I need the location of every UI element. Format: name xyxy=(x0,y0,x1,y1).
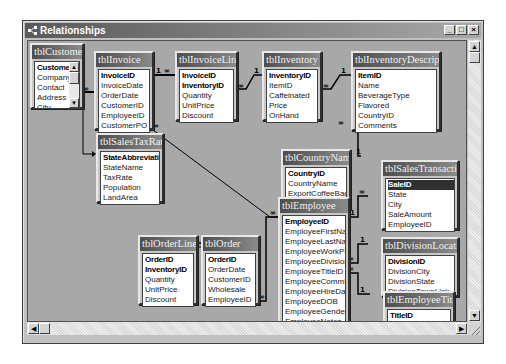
field-item[interactable]: EmployeeID xyxy=(285,217,345,227)
field-item[interactable]: UnitPrice xyxy=(145,285,193,295)
field-item[interactable]: DivisionCity xyxy=(388,267,454,277)
table-invoice[interactable]: tblInvoice InvoiceID InvoiceDate OrderDa… xyxy=(94,51,154,130)
field-item[interactable]: OrderID xyxy=(208,255,255,265)
field-item[interactable]: CountryID xyxy=(288,169,346,179)
table-title[interactable]: tblSalesTransactions xyxy=(383,162,457,176)
field-item[interactable]: StateName xyxy=(103,163,159,173)
scroll-up-icon[interactable]: ▲ xyxy=(69,62,79,72)
field-item[interactable]: UnitPrice xyxy=(182,101,233,111)
field-item[interactable]: ItemID xyxy=(269,81,317,91)
horizontal-scroll-thumb[interactable] xyxy=(39,323,50,334)
field-item[interactable]: DivisionState xyxy=(388,277,454,287)
table-order[interactable]: tblOrder OrderID OrderDate CustomerID Wh… xyxy=(201,235,260,305)
field-item[interactable]: OnHand xyxy=(269,111,317,121)
field-item[interactable]: CustomerID xyxy=(37,63,69,73)
table-invoiceline[interactable]: tblInvoiceLine InvoiceID InventoryID Qua… xyxy=(175,51,238,121)
table-title[interactable]: tblEmployee xyxy=(280,199,348,213)
field-list[interactable]: SaleID State City SaleAmount EmployeeID xyxy=(385,178,455,232)
field-item[interactable]: Quantity xyxy=(145,275,193,285)
table-inventory[interactable]: tblInventory InventoryID ItemID Caffeina… xyxy=(262,51,322,121)
field-item[interactable]: Name xyxy=(358,81,436,91)
scroll-down-icon[interactable]: ▼ xyxy=(469,310,480,321)
field-item[interactable]: InventoryID xyxy=(182,81,233,91)
scroll-up-icon[interactable]: ▲ xyxy=(469,41,480,52)
field-item[interactable]: EmployeeID xyxy=(101,111,149,121)
table-title[interactable]: tblCountryName xyxy=(283,151,349,165)
field-item[interactable]: Population xyxy=(103,183,159,193)
field-list[interactable]: InvoiceID InvoiceDate OrderDate Customer… xyxy=(98,69,150,133)
table-title[interactable]: tblInvoice xyxy=(96,53,152,67)
table-title[interactable]: tblOrderLine xyxy=(140,237,196,251)
scroll-thumb[interactable] xyxy=(69,72,79,84)
field-item[interactable]: EmployeeHireDate xyxy=(285,287,345,297)
field-item[interactable]: InventoryID xyxy=(145,265,193,275)
field-list[interactable]: OrderID OrderDate CustomerID Wholesale E… xyxy=(205,253,256,307)
field-item[interactable]: CountryName xyxy=(288,179,346,189)
field-item[interactable]: TitleID xyxy=(390,311,450,321)
field-item[interactable]: EmployeeDivisionID xyxy=(285,257,345,267)
field-item[interactable]: BeverageType xyxy=(358,91,436,101)
field-item[interactable]: LandArea xyxy=(103,193,159,203)
field-item[interactable]: EmployeeWorkPhone xyxy=(285,247,345,257)
field-item[interactable]: OrderID xyxy=(145,255,193,265)
table-title[interactable]: tblEmployeeTitle xyxy=(385,293,453,307)
table-divisionlocation[interactable]: tblDivisionLocation DivisionID DivisionC… xyxy=(381,237,459,297)
field-item[interactable]: CompanyNam xyxy=(37,73,69,83)
title-bar[interactable]: Relationships _ □ × xyxy=(25,23,481,38)
table-employee[interactable]: tblEmployee EmployeeID EmployeeFirstName… xyxy=(278,197,350,322)
table-title[interactable]: tblCustomer xyxy=(32,45,82,59)
horizontal-scrollbar[interactable]: ◀ ▶ xyxy=(27,322,468,335)
field-item[interactable]: DivisionID xyxy=(388,257,454,267)
scroll-right-icon[interactable]: ▶ xyxy=(456,323,467,334)
scroll-down-icon[interactable]: ▼ xyxy=(69,98,79,108)
field-item-selected[interactable]: SaleID xyxy=(388,180,454,190)
field-list[interactable]: ItemID Name BeverageType Flavored Countr… xyxy=(355,69,437,133)
field-item[interactable]: TaxRate xyxy=(103,173,159,183)
table-orderline[interactable]: tblOrderLine OrderID InventoryID Quantit… xyxy=(138,235,198,305)
field-list[interactable]: EmployeeID EmployeeFirstName EmployeeLas… xyxy=(282,215,346,322)
table-salestaxrate[interactable]: tblSalesTaxRate StateAbbreviation StateN… xyxy=(96,133,164,203)
field-item[interactable]: EmployeeGender xyxy=(285,307,345,317)
field-item[interactable]: EmployeeID xyxy=(388,220,454,230)
minimize-button[interactable]: _ xyxy=(444,25,455,35)
field-scrollbar[interactable]: ▲ ▼ xyxy=(69,62,79,108)
field-item[interactable]: InvoiceDate xyxy=(101,81,149,91)
field-item[interactable]: Quantity xyxy=(182,91,233,101)
vertical-scrollbar[interactable]: ▲ ▼ xyxy=(468,40,481,322)
field-item[interactable]: EmployeeFirstName xyxy=(285,227,345,237)
field-list[interactable]: InventoryID ItemID Caffeinated Price OnH… xyxy=(266,69,318,123)
field-item[interactable]: Contact xyxy=(37,83,69,93)
field-item[interactable]: Address xyxy=(37,93,69,103)
field-item[interactable]: Flavored xyxy=(358,101,436,111)
field-item[interactable]: CustomerPO xyxy=(101,121,149,131)
table-title[interactable]: tblOrder xyxy=(203,237,258,251)
field-item[interactable]: EmployeeTitleID xyxy=(285,267,345,277)
field-list[interactable]: TitleID Title xyxy=(387,309,451,322)
field-item[interactable]: StateAbbreviation xyxy=(103,153,159,163)
table-employeetitle[interactable]: tblEmployeeTitle TitleID Title xyxy=(383,291,455,322)
table-title[interactable]: tblInvoiceLine xyxy=(177,53,236,67)
field-item[interactable]: CustomerID xyxy=(101,101,149,111)
table-inventorydescription[interactable]: tblInventoryDescription ItemID Name Beve… xyxy=(351,51,441,131)
maximize-button[interactable]: □ xyxy=(456,25,467,35)
field-item[interactable]: InvoiceID xyxy=(101,71,149,81)
field-item[interactable]: City xyxy=(37,103,69,109)
field-item[interactable]: Price xyxy=(269,101,317,111)
table-title[interactable]: tblDivisionLocation xyxy=(383,239,457,253)
field-list[interactable]: StateAbbreviation StateName TaxRate Popu… xyxy=(100,151,160,205)
field-list[interactable]: OrderID InventoryID Quantity UnitPrice D… xyxy=(142,253,194,307)
field-item[interactable]: State xyxy=(388,190,454,200)
field-item[interactable]: Comments xyxy=(358,121,436,131)
resize-grip-icon[interactable] xyxy=(468,322,481,335)
close-button[interactable]: × xyxy=(468,25,479,35)
field-item[interactable]: Wholesale xyxy=(208,285,255,295)
field-item[interactable]: EmployeeDOB xyxy=(285,297,345,307)
field-item[interactable]: EmployeeID xyxy=(208,295,255,305)
table-title[interactable]: tblSalesTaxRate xyxy=(98,135,162,149)
field-list[interactable]: InvoiceID InventoryID Quantity UnitPrice… xyxy=(179,69,234,123)
field-item[interactable]: CountryID xyxy=(358,111,436,121)
table-customer[interactable]: tblCustomer CustomerID CompanyNam Contac… xyxy=(30,43,84,109)
field-item[interactable]: InvoiceID xyxy=(182,71,233,81)
field-list[interactable]: CustomerID CompanyNam Contact Address Ci… xyxy=(34,61,80,109)
field-item[interactable]: SaleAmount xyxy=(388,210,454,220)
